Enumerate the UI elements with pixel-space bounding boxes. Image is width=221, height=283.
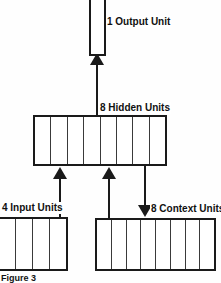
output-layer-label: 1 Output Unit xyxy=(106,16,171,28)
unit-cell xyxy=(35,117,51,164)
hidden-layer-label: 8 Hidden Units xyxy=(99,102,171,114)
unit-cell xyxy=(0,219,16,269)
unit-cell xyxy=(156,220,171,269)
unit-cell xyxy=(141,220,156,269)
unit-cell xyxy=(101,117,117,164)
unit-cell xyxy=(84,117,100,164)
unit-cell xyxy=(200,220,214,269)
input-layer-label: 4 Input Units xyxy=(1,202,64,214)
output-layer-box xyxy=(89,0,106,56)
connector-context-to-hidden xyxy=(108,178,110,220)
unit-cell xyxy=(91,0,104,54)
unit-cell xyxy=(127,220,142,269)
unit-cell xyxy=(97,220,112,269)
unit-cell xyxy=(51,117,67,164)
unit-cell xyxy=(133,117,149,164)
network-diagram: 1 Output Unit 8 Hidden Units 4 Input Uni… xyxy=(0,0,221,283)
unit-cell xyxy=(186,220,201,269)
context-layer-box xyxy=(95,218,216,271)
input-layer-box xyxy=(0,217,68,271)
arrow-up-icon-context-to-hidden xyxy=(102,167,116,179)
unit-cell xyxy=(33,219,50,269)
unit-cell xyxy=(16,219,33,269)
unit-cell xyxy=(171,220,186,269)
unit-cell xyxy=(68,117,84,164)
hidden-layer-box xyxy=(33,115,167,166)
unit-cell xyxy=(50,219,66,269)
connector-hidden-to-context xyxy=(144,164,146,210)
figure-caption: Figure 3 xyxy=(1,273,36,283)
context-layer-label: 8 Context Units xyxy=(150,203,221,215)
connector-hidden-to-output xyxy=(96,62,98,117)
unit-cell xyxy=(117,117,133,164)
arrow-up-icon-input-to-hidden xyxy=(53,167,67,179)
unit-cell xyxy=(150,117,165,164)
unit-cell xyxy=(112,220,127,269)
